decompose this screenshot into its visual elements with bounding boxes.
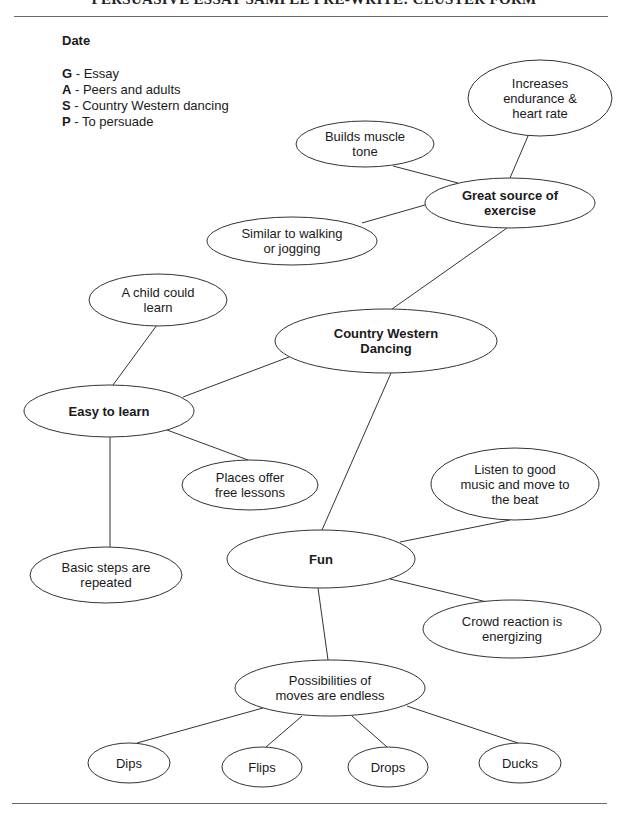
node-label: Flips — [248, 760, 276, 775]
node-label: Basic steps are — [62, 560, 151, 575]
node-label: A child could — [122, 285, 195, 300]
node-label: repeated — [80, 575, 131, 590]
node-label: Great source of — [462, 188, 559, 203]
node-label: endurance & — [503, 91, 577, 106]
node-label: Dips — [116, 756, 143, 771]
edge-builds-great — [393, 166, 458, 183]
node-crowd: Crowd reaction isenergizing — [423, 600, 601, 658]
node-fun: Fun — [227, 530, 415, 588]
node-label: Easy to learn — [69, 404, 150, 419]
node-label: Dancing — [360, 341, 411, 356]
node-label: music and move to — [460, 477, 569, 492]
edge-fun-possibilities — [318, 588, 328, 660]
node-builds: Builds muscletone — [296, 121, 434, 167]
node-label: Similar to walking — [241, 226, 342, 241]
edge-child-easy — [113, 325, 157, 385]
node-label: Builds muscle — [325, 129, 405, 144]
node-ducks: Ducks — [479, 743, 561, 783]
node-label: Places offer — [216, 470, 285, 485]
diagram-nodes: Increasesendurance &heart rateBuilds mus… — [24, 60, 612, 787]
edge-easy-places — [167, 430, 248, 460]
node-label: free lessons — [215, 485, 286, 500]
node-possibilities: Possibilities ofmoves are endless — [235, 660, 425, 716]
node-label: or jogging — [263, 241, 320, 256]
node-label: tone — [352, 144, 377, 159]
node-label: the beat — [492, 492, 539, 507]
node-child: A child couldlearn — [89, 274, 227, 326]
node-label: exercise — [484, 203, 536, 218]
node-listen: Listen to goodmusic and move tothe beat — [431, 448, 599, 520]
node-drops: Drops — [348, 747, 428, 787]
node-label: Possibilities of — [289, 673, 372, 688]
node-label: learn — [144, 300, 173, 315]
node-label: energizing — [482, 629, 542, 644]
node-dips: Dips — [88, 743, 170, 783]
node-label: heart rate — [512, 106, 568, 121]
node-label: Crowd reaction is — [462, 614, 563, 629]
bottom-divider — [12, 803, 607, 804]
node-great: Great source ofexercise — [425, 178, 595, 228]
edge-cwd-fun — [322, 373, 391, 530]
edge-fun-listen — [400, 520, 510, 542]
node-easy: Easy to learn — [24, 385, 194, 437]
node-label: Ducks — [502, 756, 539, 771]
node-label: Drops — [371, 760, 406, 775]
edge-possibilities-dips — [137, 708, 263, 743]
edge-increases-great — [510, 136, 528, 178]
node-label: Country Western — [334, 326, 439, 341]
node-increases: Increasesendurance &heart rate — [468, 60, 612, 136]
edge-possibilities-ducks — [407, 706, 518, 743]
edge-fun-crowd — [390, 579, 487, 602]
edge-possibilities-drops — [352, 716, 387, 747]
node-flips: Flips — [222, 747, 302, 787]
edge-possibilities-flips — [266, 716, 302, 747]
node-places: Places offerfree lessons — [182, 460, 318, 510]
edge-similar-great — [362, 205, 425, 223]
cluster-diagram: Increasesendurance &heart rateBuilds mus… — [0, 0, 628, 821]
node-label: Listen to good — [474, 462, 556, 477]
node-label: moves are endless — [275, 688, 385, 703]
node-label: Increases — [512, 76, 569, 91]
node-label: Fun — [309, 552, 333, 567]
edge-great-cwd — [392, 228, 507, 309]
node-basic: Basic steps arerepeated — [30, 547, 182, 603]
node-cwd: Country WesternDancing — [275, 309, 497, 373]
edge-easy-cwd — [183, 357, 289, 397]
node-similar: Similar to walkingor jogging — [207, 217, 377, 265]
